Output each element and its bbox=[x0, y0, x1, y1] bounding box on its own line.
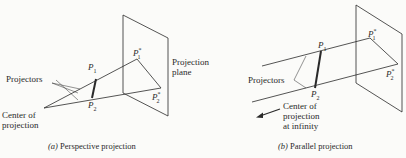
projector-2 bbox=[44, 88, 161, 108]
projection-plane bbox=[123, 15, 168, 116]
projector-1 bbox=[262, 38, 370, 66]
label-projectors-a: Projectors bbox=[6, 74, 43, 84]
label-center-a-2: projection bbox=[2, 120, 39, 130]
point-p2star-b: P*2 bbox=[386, 66, 394, 83]
label-plane-a: Projection bbox=[172, 57, 209, 67]
point-p1-a: P1 bbox=[88, 62, 97, 76]
arrow-head-icon bbox=[256, 113, 263, 119]
point-p2-b: P2 bbox=[311, 89, 320, 103]
original-segment bbox=[315, 51, 321, 88]
projection-diagram bbox=[0, 0, 406, 158]
callout-line bbox=[52, 83, 80, 89]
caption-b: (b) Parallel projection bbox=[278, 141, 353, 151]
label-center-a: Center of bbox=[2, 110, 36, 120]
point-p1star-a: P*1 bbox=[133, 45, 141, 62]
label-plane-a-2: plane bbox=[172, 67, 192, 77]
label-center-b-3: at infinity bbox=[283, 121, 318, 131]
label-center-b-2: projection bbox=[283, 111, 320, 121]
projection-plane bbox=[356, 5, 402, 112]
point-p1-b: P1 bbox=[318, 40, 327, 54]
projected-segment bbox=[137, 59, 161, 88]
point-p1star-b: P*1 bbox=[368, 26, 376, 43]
point-p2-a: P2 bbox=[88, 100, 97, 114]
perspective-panel bbox=[44, 15, 168, 116]
caption-a: (a) Perspective projection bbox=[48, 141, 136, 151]
parallel-panel bbox=[252, 5, 402, 118]
label-projectors-b: Projectors bbox=[248, 75, 285, 85]
point-p2star-a: P*2 bbox=[152, 89, 160, 106]
